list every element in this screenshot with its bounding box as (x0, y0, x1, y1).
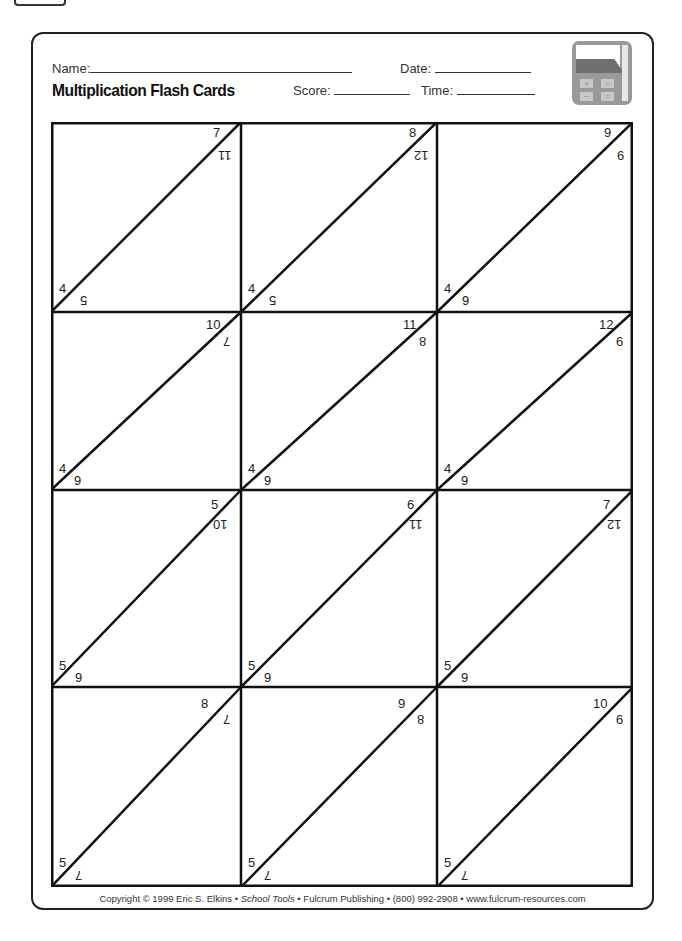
card-factor-top: 8 (201, 697, 208, 710)
card-rotated-factor-top: 10 (213, 518, 227, 531)
card-factor-top: 12 (599, 318, 613, 331)
card-rotated-factor-bottom: 5 (80, 294, 87, 307)
card-factor-top: 9 (398, 697, 405, 710)
times-key-icon: × (580, 79, 593, 88)
card-rotated-factor-bottom: 7 (264, 869, 271, 882)
time-blank[interactable] (457, 82, 535, 95)
card-rotated-factor-top: 11 (409, 518, 423, 531)
card-factor-left: 4 (248, 282, 255, 295)
date-label: Date: (400, 61, 431, 76)
card-factor-top: 5 (211, 498, 218, 511)
card-rotated-factor-top: 12 (414, 149, 428, 162)
card-factor-top: 9 (604, 126, 611, 139)
card-factor-left: 5 (59, 856, 66, 869)
name-field[interactable]: Name: (52, 60, 352, 76)
card-rotated-factor-bottom: 6 (462, 294, 469, 307)
card-rotated-factor-bottom: 6 (264, 474, 271, 487)
card-factor-top: 10 (593, 697, 607, 710)
minus-key-icon: − (580, 92, 593, 101)
card-factor-left: 4 (248, 462, 255, 475)
card-rotated-factor-bottom: 6 (264, 671, 271, 684)
card-rotated-factor-bottom: 7 (461, 869, 468, 882)
page-title: Multiplication Flash Cards (52, 81, 235, 101)
flash-card-grid: 7 4 11 5 8 4 12 5 9 4 9 6 10 4 7 6 11 4 … (51, 122, 633, 887)
time-label: Time: (421, 83, 453, 98)
card-factor-left: 4 (59, 282, 66, 295)
time-field[interactable]: Time: (421, 82, 535, 98)
card-rotated-factor-bottom: 6 (461, 474, 468, 487)
card-rotated-factor-top: 12 (607, 518, 621, 531)
card-rotated-factor-top: 9 (616, 335, 623, 348)
card-rotated-factor-bottom: 6 (74, 474, 81, 487)
score-blank[interactable] (334, 82, 410, 95)
footer-copyright: Copyright © 1999 Eric S. Elkins • (99, 893, 240, 904)
footer-publisher: • Fulcrum Publishing • (800) 992-2908 • … (295, 893, 586, 904)
card-factor-top: 11 (403, 318, 417, 331)
copyright-footer: Copyright © 1999 Eric S. Elkins • School… (31, 893, 654, 904)
score-field[interactable]: Score: (293, 82, 410, 98)
card-rotated-factor-bottom: 6 (461, 671, 468, 684)
card-factor-top: 6 (407, 498, 414, 511)
card-factor-top: 7 (603, 498, 610, 511)
card-rotated-factor-bottom: 5 (269, 294, 276, 307)
card-factor-top: 8 (409, 126, 416, 139)
page-tab-decoration (14, 0, 66, 6)
card-factor-top: 7 (213, 126, 220, 139)
card-rotated-factor-top: 8 (419, 335, 426, 348)
date-blank[interactable] (435, 60, 531, 73)
card-factor-left: 4 (444, 462, 451, 475)
divide-key-icon: ÷ (601, 79, 614, 88)
card-factor-top: 10 (206, 318, 220, 331)
calculator-icon: × ÷ − = (572, 41, 632, 105)
equals-key-icon: = (601, 92, 614, 101)
card-factor-left: 5 (444, 659, 451, 672)
card-rotated-factor-bottom: 7 (75, 869, 82, 882)
date-field[interactable]: Date: (400, 60, 531, 76)
card-rotated-factor-top: 7 (223, 713, 230, 726)
card-factor-left: 5 (444, 856, 451, 869)
name-blank[interactable] (90, 60, 352, 73)
card-factor-left: 4 (444, 282, 451, 295)
score-label: Score: (293, 83, 331, 98)
name-label: Name: (52, 61, 90, 76)
card-rotated-factor-top: 7 (223, 335, 230, 348)
card-factor-left: 4 (59, 462, 66, 475)
card-factor-left: 5 (248, 659, 255, 672)
card-rotated-factor-bottom: 6 (75, 671, 82, 684)
card-rotated-factor-top: 9 (616, 713, 623, 726)
card-factor-left: 5 (59, 659, 66, 672)
card-rotated-factor-top: 11 (218, 149, 232, 162)
card-rotated-factor-top: 9 (617, 149, 624, 162)
card-factor-left: 5 (248, 856, 255, 869)
card-rotated-factor-top: 8 (417, 713, 424, 726)
footer-series-title: School Tools (241, 893, 295, 904)
card-grid-lines (51, 122, 633, 887)
